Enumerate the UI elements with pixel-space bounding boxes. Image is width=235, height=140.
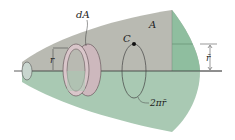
radius-label: r — [50, 55, 55, 65]
revolution-diagram: r dA C A 2πr̄ r̄ — [0, 0, 235, 140]
solid-body — [0, 0, 235, 140]
lower-surface — [0, 71, 235, 140]
path-length-label: 2πr̄ — [149, 98, 167, 108]
upper-surface — [0, 0, 235, 71]
centroid-dot — [132, 42, 136, 46]
centroid-label: C — [123, 33, 131, 44]
area-label: A — [148, 19, 156, 30]
area-element-label: dA — [76, 9, 90, 20]
ring-element — [63, 44, 101, 96]
diagram-canvas: r dA C A 2πr̄ r̄ — [0, 0, 235, 140]
centroid-radius-label: r̄ — [206, 53, 211, 63]
tip-ellipse — [22, 62, 32, 80]
